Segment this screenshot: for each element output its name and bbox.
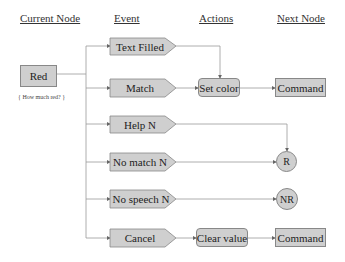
next-node-r: R xyxy=(276,151,297,172)
next-node-nr: NR xyxy=(276,188,298,210)
action-set-color: Set color xyxy=(198,78,240,97)
connector-lines xyxy=(0,0,345,262)
current-node-red: Red xyxy=(20,65,57,87)
action-clear-value: Clear value xyxy=(196,228,248,247)
next-node-command-2: Command xyxy=(275,228,326,247)
event-text-filled: Text Filled xyxy=(110,38,170,55)
header-current-node: Current Node xyxy=(20,12,80,24)
header-next-node: Next Node xyxy=(277,12,325,24)
event-match: Match xyxy=(110,79,170,97)
event-no-speech-n: No speech N xyxy=(110,190,172,208)
event-cancel: Cancel xyxy=(110,229,170,247)
header-actions: Actions xyxy=(199,12,233,24)
event-no-match-n: No match N xyxy=(110,153,170,171)
diagram: Current Node Event Actions Next Node Red… xyxy=(0,0,345,262)
next-node-command-1: Command xyxy=(275,78,326,97)
current-node-prompt: { How much red? } xyxy=(18,94,65,100)
header-event: Event xyxy=(114,12,140,24)
event-help-n: Help N xyxy=(110,116,170,133)
